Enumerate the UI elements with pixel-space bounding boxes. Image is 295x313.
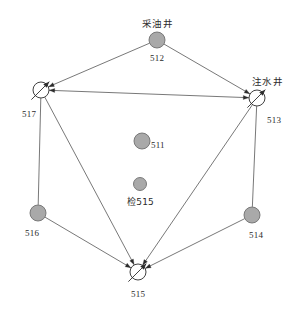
arrowhead-icon — [143, 260, 148, 265]
node-label-512: 512 — [150, 53, 164, 63]
node-label-517: 517 — [22, 109, 36, 119]
node-label-511: 511 — [151, 140, 165, 150]
edge-517-516 — [38, 98, 41, 204]
edges-layer — [38, 43, 256, 268]
node-label-513: 513 — [267, 115, 281, 125]
edge-513-514 — [252, 106, 256, 206]
production-well-icon — [149, 32, 165, 48]
arrowhead-icon — [243, 95, 248, 99]
production-well-icon — [134, 133, 150, 149]
well-node-514[interactable] — [244, 207, 260, 223]
production-well-icon — [244, 207, 260, 223]
node-type-label-513: 注水井 — [252, 77, 283, 87]
well-node-511[interactable] — [134, 133, 150, 149]
edge-512-513 — [164, 44, 249, 93]
node-label-jian515: 检515 — [127, 197, 154, 207]
production-well-icon — [30, 205, 46, 221]
arrowhead-icon — [130, 259, 134, 265]
arrowhead-icon — [244, 89, 250, 93]
production-well-icon — [134, 178, 147, 191]
well-pattern-diagram: 512采油井513注水井514515516517511检515 — [0, 0, 295, 313]
arrowhead-icon — [49, 89, 54, 93]
arrowhead-icon — [146, 264, 152, 268]
edge-517-513 — [49, 90, 248, 97]
edge-512-517 — [49, 43, 149, 86]
arrowhead-icon — [125, 263, 130, 267]
well-node-517[interactable] — [32, 82, 49, 99]
well-network-canvas — [0, 0, 295, 313]
well-node-513[interactable] — [248, 90, 265, 107]
node-label-516: 516 — [25, 228, 39, 238]
edge-514-515 — [146, 219, 245, 268]
node-label-514: 514 — [249, 230, 263, 240]
nodes-layer — [30, 32, 265, 281]
well-node-512[interactable] — [149, 32, 165, 48]
node-type-label-512: 采油井 — [142, 19, 173, 29]
well-node-jian515[interactable] — [134, 178, 147, 191]
edge-516-515 — [45, 217, 130, 267]
edge-517-515 — [45, 98, 134, 265]
arrowhead-icon — [49, 83, 55, 87]
well-node-516[interactable] — [30, 205, 46, 221]
node-label-515: 515 — [131, 289, 145, 299]
well-node-515[interactable] — [129, 264, 146, 281]
edge-513-515 — [143, 105, 252, 265]
